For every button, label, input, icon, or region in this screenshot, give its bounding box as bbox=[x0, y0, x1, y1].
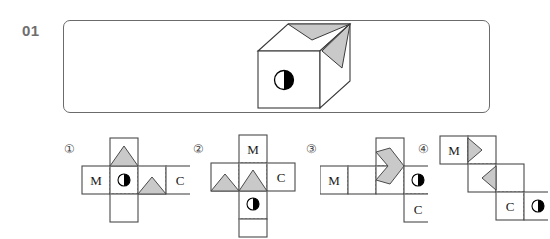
half-filled-circle-icon bbox=[247, 198, 259, 210]
half-filled-circle-icon bbox=[118, 174, 130, 186]
option-4-label: ④ bbox=[418, 142, 429, 157]
reference-cube bbox=[250, 18, 360, 113]
option-1-net: M C bbox=[78, 130, 190, 239]
option-2-label: ② bbox=[193, 142, 204, 157]
option-3-label: ③ bbox=[306, 142, 317, 157]
option-1-letter-right: C bbox=[176, 173, 185, 188]
option-1-letter-left: M bbox=[90, 173, 102, 188]
half-filled-circle-icon bbox=[275, 71, 294, 90]
option-3[interactable]: ③ M bbox=[306, 130, 428, 239]
page-title: 01 bbox=[22, 22, 40, 39]
option-4-letter-bottom: C bbox=[506, 199, 515, 214]
option-2-net: M C bbox=[207, 130, 303, 239]
option-4-letter-top: M bbox=[448, 143, 460, 158]
option-2[interactable]: ② bbox=[193, 130, 303, 239]
option-4[interactable]: ④ bbox=[418, 130, 550, 239]
answer-options: ① bbox=[0, 130, 550, 239]
option-1-label: ① bbox=[64, 142, 75, 157]
option-3-net: M C bbox=[320, 130, 428, 239]
option-3-letter-left: M bbox=[328, 173, 340, 188]
half-filled-circle-icon bbox=[532, 200, 544, 212]
option-1[interactable]: ① bbox=[64, 130, 190, 239]
question-page: 01 ① bbox=[0, 0, 550, 239]
reference-cube-svg bbox=[250, 18, 360, 113]
option-2-letter-right: C bbox=[277, 170, 286, 185]
option-4-net: M C bbox=[432, 130, 548, 239]
option-2-letter-top: M bbox=[247, 142, 259, 157]
